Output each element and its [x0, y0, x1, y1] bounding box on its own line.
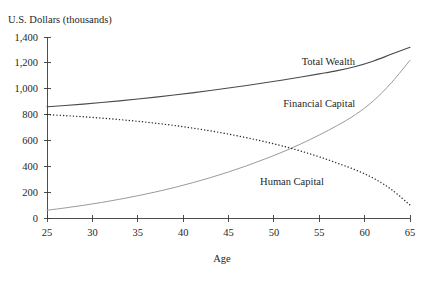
x-tick-label: 55 — [314, 227, 325, 238]
x-tick-label: 30 — [87, 227, 98, 238]
x-tick-label: 45 — [223, 227, 234, 238]
chart-container: U.S. Dollars (thousands) 02004006008001,… — [0, 0, 426, 281]
y-tick-label: 1,400 — [14, 32, 38, 43]
y-axis-title: U.S. Dollars (thousands) — [8, 14, 112, 26]
x-tick-label: 35 — [133, 227, 144, 238]
y-tick-label: 1,200 — [14, 57, 38, 68]
y-tick-label: 400 — [22, 161, 38, 172]
y-tick-label: 200 — [22, 187, 38, 198]
y-tick-label: 600 — [22, 135, 38, 146]
x-tick-label: 65 — [405, 227, 416, 238]
series-line-human-capital — [47, 115, 410, 206]
series-line-financial-capital — [47, 60, 410, 210]
y-tick-label: 0 — [33, 213, 38, 224]
annotation-human-capital: Human Capital — [260, 176, 324, 187]
x-axis-tick-labels: 253035404550556065 — [42, 227, 416, 238]
x-tick-label: 40 — [178, 227, 189, 238]
annotation-total-wealth: Total Wealth — [302, 56, 356, 67]
x-tick-label: 50 — [269, 227, 280, 238]
series-lines — [47, 47, 410, 210]
wealth-over-age-line-chart: U.S. Dollars (thousands) 02004006008001,… — [0, 0, 426, 281]
x-axis-title: Age — [213, 253, 231, 264]
y-tick-label: 1,000 — [14, 83, 38, 94]
x-tick-label: 25 — [42, 227, 53, 238]
x-tick-label: 60 — [359, 227, 370, 238]
series-line-total-wealth — [47, 47, 410, 106]
y-tick-label: 800 — [22, 109, 38, 120]
y-axis-tick-labels: 02004006008001,0001,2001,400 — [14, 32, 38, 224]
annotation-financial-capital: Financial Capital — [283, 98, 355, 109]
